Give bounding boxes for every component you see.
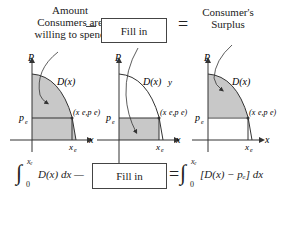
svg-text:p: p — [105, 112, 111, 123]
svg-text:e): e) — [94, 108, 101, 117]
svg-text:y: y — [167, 77, 172, 87]
equals-sign-bottom: = — [169, 164, 179, 185]
svg-text:e: e — [74, 147, 77, 153]
integral-lower-left: 0 — [26, 180, 30, 189]
svg-text:(x: (x — [249, 108, 256, 117]
svg-text:e: e — [25, 119, 28, 125]
svg-text:(x: (x — [73, 108, 80, 117]
svg-text:e: e — [112, 119, 115, 125]
svg-text:x: x — [264, 134, 270, 145]
svg-text:P: P — [203, 52, 210, 63]
svg-text:x: x — [244, 142, 249, 152]
svg-text:P: P — [114, 52, 121, 63]
svg-text:e,p: e,p — [258, 108, 268, 117]
svg-text:e): e) — [181, 108, 188, 117]
svg-text:e,p: e,p — [169, 108, 179, 117]
integral-lower-right: 0 — [190, 180, 194, 189]
svg-text:e: e — [201, 119, 204, 125]
svg-text:x: x — [88, 134, 94, 145]
fill-in-box-bottom[interactable]: Fill in — [92, 163, 167, 189]
svg-text:e,p: e,p — [82, 108, 92, 117]
svg-text:x: x — [155, 142, 160, 152]
graph-total-amount: P D(x) (xe,pe) pe xe x — [10, 52, 101, 153]
svg-text:p: p — [194, 112, 200, 123]
integral-right-expr: [D(x) − pₑ] dx — [200, 168, 263, 180]
integral-sign-left: ∫ — [16, 160, 22, 186]
svg-text:P: P — [27, 52, 34, 63]
svg-text:x: x — [175, 134, 181, 145]
svg-text:p: p — [18, 112, 24, 123]
graph-amount-spent: P D(x) y (xe,pe) pe xe x — [97, 48, 188, 153]
svg-text:D(x): D(x) — [56, 76, 76, 88]
svg-text:x: x — [68, 142, 73, 152]
svg-text:e: e — [250, 147, 253, 153]
svg-text:D(x): D(x) — [142, 76, 162, 88]
fill-in-bottom-text: Fill in — [116, 170, 143, 182]
integral-upper-left: xₑ — [27, 157, 33, 166]
svg-text:D(x): D(x) — [231, 76, 251, 88]
svg-text:(x: (x — [160, 108, 167, 117]
integral-sign-right: ∫ — [180, 160, 186, 186]
integral-upper-right: xₑ — [191, 157, 197, 166]
svg-text:e: e — [161, 147, 164, 153]
integral-left-expr: D(x) dx — — [38, 168, 84, 180]
graph-consumer-surplus: P D(x) (xe,pe) pe xe x — [192, 45, 277, 153]
svg-text:e): e) — [270, 108, 277, 117]
